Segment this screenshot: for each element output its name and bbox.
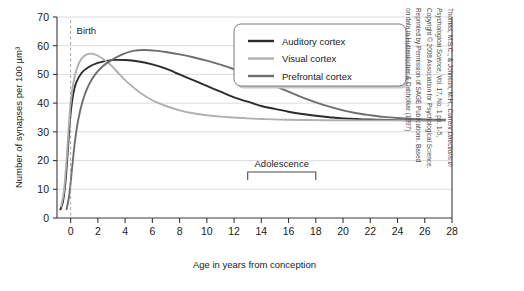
x-axis-title: Age in years from conception xyxy=(193,259,316,270)
credit-line-1-italic: Current Directions in xyxy=(447,109,454,167)
x-tick-label: 12 xyxy=(228,225,240,237)
x-tick-label: 8 xyxy=(177,225,183,237)
birth-label: Birth xyxy=(77,25,97,36)
legend-label: Visual cortex xyxy=(282,53,336,64)
x-tick-label: 16 xyxy=(283,225,295,237)
source-credit: Thomas, M.S.C., & Johnson, M.H., Current… xyxy=(393,8,455,240)
credit-line-4: Reprinted by Permission of SAGE Publicat… xyxy=(413,8,424,240)
y-axis-ticks: 010203040506070 xyxy=(37,11,57,224)
y-tick-label: 60 xyxy=(37,40,49,52)
x-tick-label: 4 xyxy=(122,225,128,237)
legend-label: Prefrontal cortex xyxy=(282,71,352,82)
y-tick-label: 70 xyxy=(37,11,49,23)
adolescence-label: Adolescence xyxy=(255,158,309,169)
x-tick-label: 20 xyxy=(337,225,349,237)
y-tick-label: 10 xyxy=(37,183,49,195)
y-tick-label: 30 xyxy=(37,126,49,138)
credit-line-2-suffix: Vol. 17, No. 1 pp. 1-5, xyxy=(436,73,443,137)
x-tick-label: 6 xyxy=(149,225,155,237)
credit-line-3: Copyright © 2008 Association for Psychol… xyxy=(423,8,434,240)
y-tick-label: 0 xyxy=(43,212,49,224)
credit-line-5: on data in Huttenlocher & Dabholkar (199… xyxy=(402,8,413,240)
y-tick-label: 20 xyxy=(37,154,49,166)
y-axis-title: Number of synapses per 100 µm³ xyxy=(13,47,24,188)
x-tick-label: 22 xyxy=(364,225,376,237)
credit-line-2: Psychological Science, Vol. 17, No. 1 pp… xyxy=(434,8,445,240)
x-tick-label: 18 xyxy=(310,225,322,237)
credit-line-1-prefix: Thomas, M.S.C., & Johnson, M.H., xyxy=(447,8,454,109)
legend: Auditory cortexVisual cortexPrefrontal c… xyxy=(234,24,409,89)
legend-label: Auditory cortex xyxy=(282,36,346,47)
x-tick-label: 2 xyxy=(95,225,101,237)
x-tick-label: 0 xyxy=(68,225,74,237)
credit-line-2-italic: Psychological Science, xyxy=(436,8,443,73)
chart-container: 010203040506070 024681012141618202224262… xyxy=(0,0,524,291)
y-tick-label: 50 xyxy=(37,68,49,80)
x-tick-label: 14 xyxy=(255,225,267,237)
credit-line-1: Thomas, M.S.C., & Johnson, M.H., Current… xyxy=(444,8,455,240)
y-tick-label: 40 xyxy=(37,97,49,109)
adolescence-bracket xyxy=(248,172,316,180)
x-tick-label: 10 xyxy=(201,225,213,237)
